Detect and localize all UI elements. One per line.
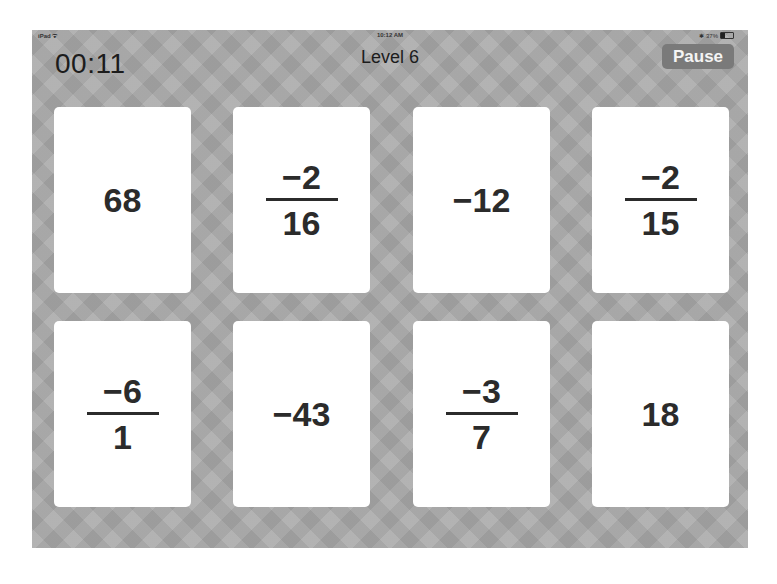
card-7[interactable]: −3 7: [413, 321, 550, 507]
card-3[interactable]: −12: [413, 107, 550, 293]
status-time: 10:12 AM: [32, 32, 748, 38]
card-8[interactable]: 18: [592, 321, 729, 507]
card-value: −43: [273, 395, 331, 434]
card-6[interactable]: −43: [233, 321, 370, 507]
numerator: −6: [103, 373, 142, 409]
bluetooth-icon: ✱: [699, 32, 704, 39]
card-1[interactable]: 68: [54, 107, 191, 293]
card-4[interactable]: −2 15: [592, 107, 729, 293]
battery-icon: [720, 32, 734, 39]
fraction-bar: [625, 198, 697, 201]
level-title: Level 6: [32, 47, 748, 68]
battery-level: [721, 33, 725, 38]
status-bar: iPad ᯤ 10:12 AM ✱ 37%: [32, 30, 748, 42]
fraction: −2 16: [266, 159, 338, 241]
pause-button[interactable]: Pause: [662, 44, 734, 69]
fraction-bar: [266, 198, 338, 201]
card-value: 68: [104, 181, 142, 220]
card-2[interactable]: −2 16: [233, 107, 370, 293]
numerator: −2: [641, 159, 680, 195]
numerator: −2: [282, 159, 321, 195]
denominator: 7: [472, 419, 491, 455]
fraction-bar: [87, 412, 159, 415]
game-screen: iPad ᯤ 10:12 AM ✱ 37% 00:11 Level 6 Paus…: [32, 30, 748, 548]
fraction: −6 1: [87, 373, 159, 455]
card-value: −12: [453, 181, 511, 220]
status-right-group: ✱ 37%: [699, 32, 734, 39]
card-5[interactable]: −6 1: [54, 321, 191, 507]
numerator: −3: [462, 373, 501, 409]
card-value: 18: [642, 395, 680, 434]
fraction: −2 15: [625, 159, 697, 241]
denominator: 16: [283, 205, 321, 241]
battery-percent: 37%: [706, 33, 718, 39]
fraction: −3 7: [446, 373, 518, 455]
denominator: 15: [642, 205, 680, 241]
denominator: 1: [113, 419, 132, 455]
fraction-bar: [446, 412, 518, 415]
